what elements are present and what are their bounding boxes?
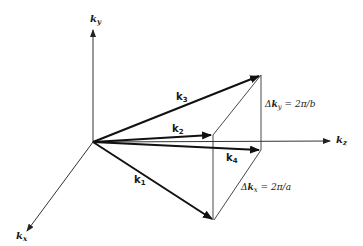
kz-axis: [93, 141, 330, 142]
k-space-vector-diagram: ky kz kx k3 k2 k4 k1 Δky = 2π/b Δkx = 2π…: [0, 0, 363, 246]
kz-axis-label: kz: [336, 134, 348, 147]
delta-kx-annotation: Δkx = 2π/a: [240, 182, 291, 194]
vector-k4: [93, 142, 259, 150]
kx-axis-label: kx: [16, 230, 28, 243]
vector-k1: [93, 142, 212, 219]
vector-k2: [93, 135, 211, 142]
k3-label: k3: [176, 91, 188, 104]
delta-ky-annotation: Δky = 2π/b: [264, 99, 316, 111]
ky-axis-label: ky: [90, 13, 102, 26]
kx-axis: [27, 142, 93, 231]
k2-label: k2: [172, 123, 184, 136]
k4-label: k4: [226, 152, 238, 165]
